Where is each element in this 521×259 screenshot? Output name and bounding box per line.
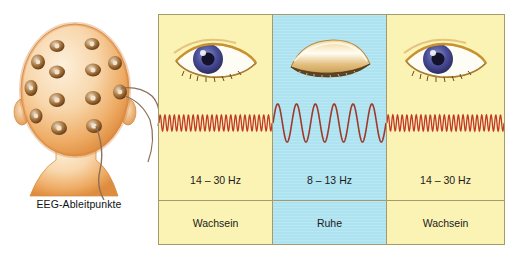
electrode [30, 109, 43, 124]
eeg-head-illustration [0, 0, 158, 259]
frequency-label: 14 – 30 Hz [159, 159, 272, 200]
column-art-cell [273, 15, 386, 159]
column-awake-left: 14 – 30 Hz Wachsein [159, 15, 273, 244]
electrode [31, 55, 45, 70]
electrode [85, 91, 101, 105]
electrode [113, 85, 127, 100]
beta-wave-svg [387, 97, 504, 149]
column-art-cell [387, 15, 504, 159]
eeg-states-panel: 14 – 30 Hz Wachsein [158, 14, 505, 245]
head-illustration-caption: EEG-Ableitpunkte [0, 198, 158, 210]
head-diagram-svg [0, 0, 158, 200]
closed-eye-icon [273, 23, 386, 95]
column-rest: 8 – 13 Hz Ruhe [273, 15, 387, 244]
electrode [49, 93, 65, 107]
state-label: Wachsein [387, 200, 504, 244]
beta-wave-icon [387, 97, 504, 149]
electrode [108, 56, 122, 70]
state-label: Wachsein [159, 200, 272, 244]
state-label: Ruhe [273, 200, 386, 244]
electrode [25, 80, 38, 96]
alpha-wave-icon [273, 97, 386, 149]
electrode [51, 121, 67, 135]
frequency-label: 14 – 30 Hz [387, 159, 504, 200]
open-eye-icon [159, 23, 272, 95]
open-eye-icon [387, 23, 504, 95]
beta-wave-icon [159, 97, 272, 149]
beta-wave-svg [159, 97, 272, 149]
electrode [49, 66, 65, 79]
electrode [85, 38, 100, 50]
electrode [50, 40, 65, 52]
electrode [86, 119, 102, 133]
frequency-label: 8 – 13 Hz [273, 159, 386, 200]
column-awake-right: 14 – 30 Hz Wachsein [387, 15, 504, 244]
column-art-cell [159, 15, 272, 159]
electrode [85, 64, 101, 77]
alpha-wave-svg [273, 97, 386, 149]
